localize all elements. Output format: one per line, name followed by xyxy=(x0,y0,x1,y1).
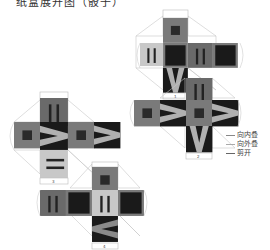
legend-label: 向内叠 xyxy=(237,131,258,140)
cut-line-icon xyxy=(226,153,235,154)
legend-item-cut: 剪开 xyxy=(226,149,258,158)
fold-outward-line-icon xyxy=(226,144,235,145)
legend-item-fold-outward: 向外叠 xyxy=(226,140,258,149)
legend-item-fold-inward: 向内叠 xyxy=(226,131,258,140)
fold-inward-line-icon xyxy=(226,135,235,136)
cube-nets-diagram: 1 2 3 xyxy=(0,0,270,250)
legend-label: 向外叠 xyxy=(237,140,258,149)
legend-label: 剪开 xyxy=(237,149,251,158)
legend: 向内叠 向外叠 剪开 xyxy=(226,131,258,158)
